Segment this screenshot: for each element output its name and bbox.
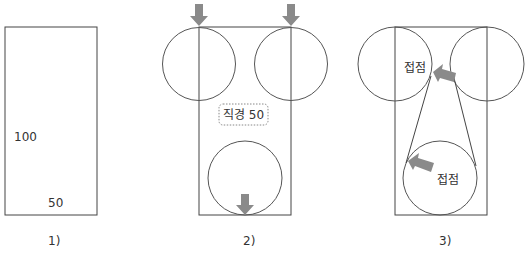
arrow-up-left-icon xyxy=(408,153,434,172)
diagram-stage: 100 50 1) 직경 50 2) xyxy=(0,0,531,253)
contact-point-label-top: 접점 xyxy=(404,61,426,75)
arrow-left-icon xyxy=(433,64,456,82)
panel-2: 직경 50 2) xyxy=(163,4,328,248)
panel-2-caption: 2) xyxy=(243,234,255,248)
diagram-canvas: 100 50 1) 직경 50 2) xyxy=(0,0,531,253)
tangent-line-left xyxy=(406,76,431,163)
panel-3: 접점 접점 3) xyxy=(358,27,524,248)
arrow-down-icon xyxy=(236,194,254,215)
arrow-down-icon xyxy=(282,4,300,26)
arrow-down-icon xyxy=(190,4,208,26)
tangent-line-right xyxy=(454,78,476,166)
panel-1-caption: 1) xyxy=(48,234,60,248)
panel-1: 100 50 1) xyxy=(5,27,97,248)
diameter-callout-text: 직경 50 xyxy=(223,108,264,122)
panel-3-caption: 3) xyxy=(439,234,451,248)
panel-1-height-label: 100 xyxy=(14,130,37,144)
panel-1-rectangle xyxy=(5,27,97,215)
panel-1-width-label: 50 xyxy=(48,196,63,210)
contact-point-label-bottom: 접점 xyxy=(437,173,459,187)
